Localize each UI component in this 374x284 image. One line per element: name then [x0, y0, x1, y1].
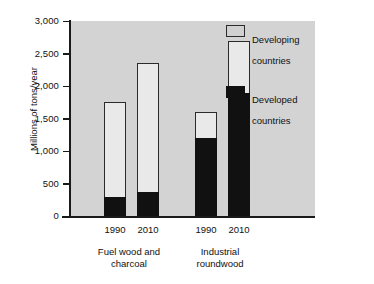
x-group-label-roundwood: Industrial roundwood — [155, 246, 285, 269]
x-group-label-roundwood-line2: roundwood — [155, 258, 285, 270]
legend-item-developing: Developing countries — [226, 24, 300, 77]
y-tick-2000 — [63, 86, 70, 88]
y-tick-1500 — [63, 118, 70, 120]
legend-label-developing-line2: countries — [252, 56, 300, 67]
y-tick-label-3000: 3,000 — [0, 16, 59, 26]
x-label-roundwood-2010: 2010 — [219, 224, 259, 235]
y-tick-1000 — [63, 151, 70, 153]
x-label-fuelwood-2010: 2010 — [128, 224, 168, 235]
x-axis-line — [62, 216, 315, 218]
legend-label-developing-line1: Developing — [252, 35, 300, 46]
bar-segment-developed-fuelwood-2010 — [137, 192, 159, 216]
legend-swatch-developed-icon — [226, 86, 245, 98]
legend: Developing countries Developed countries — [226, 24, 300, 145]
legend-label-developed-line2: countries — [252, 116, 297, 127]
legend-label-developing: Developing countries — [252, 24, 300, 77]
legend-label-developed-line1: Developed — [252, 95, 297, 106]
y-tick-3000 — [63, 21, 70, 23]
y-tick-2500 — [63, 53, 70, 55]
legend-swatch-developing-icon — [226, 25, 245, 37]
y-axis-title: Millions of tons/year — [29, 34, 39, 184]
legend-label-developed: Developed countries — [252, 85, 297, 138]
bar-fuelwood-2010 — [137, 63, 159, 216]
bar-segment-developed-roundwood-1990 — [195, 138, 217, 216]
bar-fuelwood-1990 — [104, 102, 126, 216]
y-tick-label-0: 0 — [0, 211, 59, 221]
x-group-label-roundwood-line1: Industrial — [155, 246, 285, 258]
bar-segment-developed-fuelwood-1990 — [104, 197, 126, 217]
legend-item-developed: Developed countries — [226, 85, 300, 138]
stacked-bar-chart: 3,000 2,500 2,000 1,500 1,000 500 0 Mill… — [0, 0, 374, 284]
bar-roundwood-1990 — [195, 112, 217, 216]
y-tick-500 — [63, 183, 70, 185]
